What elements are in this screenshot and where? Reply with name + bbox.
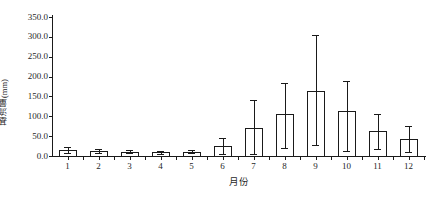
error-bar-stem <box>347 81 348 152</box>
error-bar-cap-lower <box>405 152 412 153</box>
error-bar-cap-upper <box>250 100 257 101</box>
y-axis-tick-label: 50.0 <box>8 132 48 141</box>
error-bar-cap-lower <box>188 153 195 154</box>
error-bar-cap-upper <box>188 150 195 151</box>
x-axis-tick-mark <box>192 157 193 160</box>
error-bar-cap-lower <box>126 153 133 154</box>
x-axis-tick-mark <box>161 157 162 160</box>
x-axis-tick-label: 3 <box>115 161 145 172</box>
x-axis-tick-mark-minor <box>83 157 84 160</box>
y-axis-tick-label: 100.0 <box>8 112 48 121</box>
x-axis-tick-mark <box>409 157 410 160</box>
error-bar-stem <box>223 138 224 154</box>
y-axis-tick-label: 200.0 <box>8 72 48 81</box>
error-bar-cap-upper <box>405 126 412 127</box>
x-axis-tick-label: 12 <box>394 161 424 172</box>
chart-container: 基流量(mm) 0.050.0100.0150.0200.0250.0300.0… <box>0 0 429 205</box>
x-axis-tick-mark-minor <box>207 157 208 160</box>
x-axis-tick-label: 2 <box>84 161 114 172</box>
x-axis-tick-mark <box>68 157 69 160</box>
x-axis-tick-mark-minor <box>331 157 332 160</box>
error-bar-cap-upper <box>281 83 288 84</box>
error-bar-cap-lower <box>95 153 102 154</box>
error-bar-cap-lower <box>374 149 381 150</box>
y-axis-tick-label: 0.0 <box>8 152 48 161</box>
x-axis-title: 月份 <box>52 176 426 188</box>
error-bar-cap-lower <box>343 151 350 152</box>
error-bar-cap-lower <box>219 154 226 155</box>
x-axis-tick-mark <box>99 157 100 160</box>
error-bar-cap-upper <box>312 35 319 36</box>
x-axis-tick-label: 6 <box>208 161 238 172</box>
error-bar-stem <box>378 114 379 149</box>
y-axis-tick-label: 350.0 <box>8 13 48 22</box>
x-axis-tick-mark <box>130 157 131 160</box>
x-axis-tick-label: 1 <box>53 161 83 172</box>
x-axis-tick-mark <box>254 157 255 160</box>
error-bar-cap-upper <box>126 150 133 151</box>
plot-area <box>52 17 424 156</box>
error-bar-stem <box>254 100 255 154</box>
error-bar-cap-upper <box>95 149 102 150</box>
x-axis-tick-mark-minor <box>269 157 270 160</box>
x-axis-tick-label: 8 <box>270 161 300 172</box>
x-axis-tick-mark-minor <box>424 157 425 160</box>
error-bar-cap-lower <box>157 154 164 155</box>
x-axis-tick-mark <box>378 157 379 160</box>
error-bar-stem <box>409 126 410 152</box>
error-bar-cap-lower <box>281 148 288 149</box>
y-axis-tick-label: 300.0 <box>8 32 48 41</box>
error-bar-cap-upper <box>157 151 164 152</box>
x-axis-tick-mark-minor <box>145 157 146 160</box>
error-bar-cap-upper <box>219 138 226 139</box>
x-axis-tick-label: 5 <box>177 161 207 172</box>
x-axis-tick-mark-minor <box>300 157 301 160</box>
error-bar-cap-upper <box>343 81 350 82</box>
error-bar-cap-lower <box>64 153 71 154</box>
y-axis-tick-label: 150.0 <box>8 92 48 101</box>
x-axis-tick-mark-minor <box>393 157 394 160</box>
x-axis-tick-mark <box>316 157 317 160</box>
error-bar-cap-lower <box>312 145 319 146</box>
error-bar-stem <box>316 35 317 145</box>
x-axis-tick-mark-minor <box>238 157 239 160</box>
x-axis-tick-label: 11 <box>363 161 393 172</box>
error-bar-stem <box>285 83 286 149</box>
x-axis-tick-mark-minor <box>176 157 177 160</box>
error-bar-cap-lower <box>250 154 257 155</box>
x-axis-tick-label: 9 <box>301 161 331 172</box>
y-axis-tick-label: 250.0 <box>8 52 48 61</box>
error-bar-cap-upper <box>374 114 381 115</box>
x-axis-tick-mark <box>223 157 224 160</box>
error-bar-cap-upper <box>64 147 71 148</box>
x-axis-tick-labels: 123456789101112 <box>52 161 426 175</box>
x-axis-tick-mark-minor <box>114 157 115 160</box>
x-axis-tick-mark <box>285 157 286 160</box>
x-axis-tick-label: 4 <box>146 161 176 172</box>
y-axis-tick-labels: 0.050.0100.0150.0200.0250.0300.0350.0 <box>4 0 48 205</box>
x-axis-tick-label: 10 <box>332 161 362 172</box>
x-axis-tick-mark <box>347 157 348 160</box>
x-axis-tick-label: 7 <box>239 161 269 172</box>
x-axis-tick-mark-minor <box>362 157 363 160</box>
